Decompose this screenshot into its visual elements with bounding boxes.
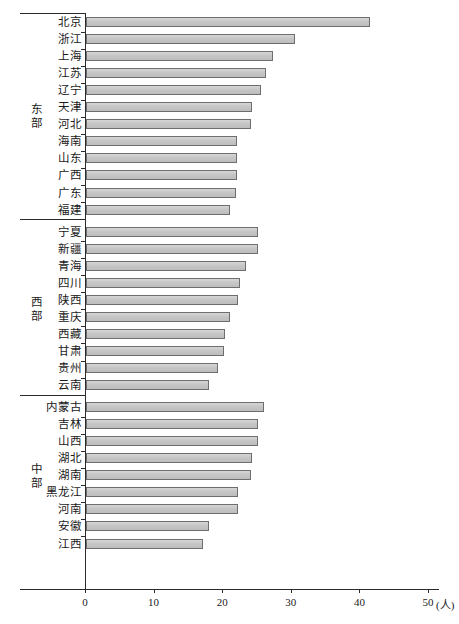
bar <box>86 188 236 198</box>
category-label: 云南 <box>58 377 82 394</box>
bar <box>86 380 209 390</box>
category-label: 海南 <box>58 133 82 150</box>
bar <box>86 521 209 531</box>
y-axis-tick <box>81 361 86 362</box>
bar-row: 北京 <box>0 14 459 31</box>
category-label: 山东 <box>58 150 82 167</box>
bar-row: 广西 <box>0 167 459 184</box>
bar <box>86 119 251 129</box>
y-axis-tick <box>81 32 86 33</box>
bar <box>86 363 218 373</box>
category-label: 上海 <box>58 48 82 65</box>
x-axis-tick <box>291 589 292 593</box>
bar <box>86 136 237 146</box>
bar-row: 江西 <box>0 536 459 553</box>
y-axis-tick <box>81 134 86 135</box>
category-label: 内蒙古 <box>46 399 82 416</box>
bar-row: 江苏 <box>0 65 459 82</box>
category-label: 青海 <box>58 258 82 275</box>
y-axis-tick <box>81 241 86 242</box>
category-label: 辽宁 <box>58 82 82 99</box>
category-label: 山西 <box>58 433 82 450</box>
bar <box>86 205 230 215</box>
x-axis-line <box>20 589 439 590</box>
bar <box>86 34 295 44</box>
category-label: 陕西 <box>58 292 82 309</box>
bar <box>86 261 246 271</box>
category-label: 江苏 <box>58 65 82 82</box>
category-label: 河南 <box>58 501 82 518</box>
bar-row: 河南 <box>0 501 459 518</box>
x-axis-label: 20 <box>217 596 228 608</box>
y-axis-tick <box>81 468 86 469</box>
y-axis-tick <box>81 292 86 293</box>
bar <box>86 453 252 463</box>
bar <box>86 227 258 237</box>
bar <box>86 346 224 356</box>
category-label: 浙江 <box>58 31 82 48</box>
bar <box>86 68 266 78</box>
bar-row: 吉林 <box>0 416 459 433</box>
bar <box>86 244 258 254</box>
y-axis-tick <box>81 151 86 152</box>
bar <box>86 329 225 339</box>
x-axis-tick <box>154 589 155 593</box>
x-axis-label: 50 <box>423 596 434 608</box>
x-axis-tick <box>222 589 223 593</box>
category-label: 新疆 <box>58 241 82 258</box>
y-axis-tick <box>81 66 86 67</box>
category-label: 重庆 <box>58 309 82 326</box>
group-label-2: 中部 <box>20 463 42 491</box>
category-label: 湖南 <box>58 467 82 484</box>
x-axis-tick <box>428 589 429 593</box>
category-label: 甘肃 <box>58 343 82 360</box>
bar-row: 海南 <box>0 133 459 150</box>
y-axis-tick <box>81 485 86 486</box>
bar <box>86 295 238 305</box>
bar-row: 辽宁 <box>0 82 459 99</box>
category-label: 广西 <box>58 167 82 184</box>
y-axis-tick <box>81 49 86 50</box>
y-axis-tick <box>81 451 86 452</box>
y-axis-tick <box>81 117 86 118</box>
bar <box>86 539 203 549</box>
category-label: 河北 <box>58 116 82 133</box>
y-axis-tick <box>81 202 86 203</box>
category-label: 西藏 <box>58 326 82 343</box>
bar-row: 内蒙古 <box>0 399 459 416</box>
bar-row: 甘肃 <box>0 343 459 360</box>
bar <box>86 51 273 61</box>
group-label-0: 东部 <box>20 103 42 131</box>
x-axis-label: 0 <box>82 596 88 608</box>
bar-chart: 北京浙江上海江苏辽宁天津河北海南山东广西广东福建宁夏新疆青海四川陕西重庆西藏甘肃… <box>0 0 459 624</box>
x-axis-tick <box>85 589 86 593</box>
bar-row: 新疆 <box>0 241 459 258</box>
x-axis-label: 40 <box>354 596 365 608</box>
x-axis-tick <box>359 589 360 593</box>
category-label: 湖北 <box>58 450 82 467</box>
group-separator <box>20 219 86 220</box>
y-axis-tick <box>81 275 86 276</box>
bar-row: 陕西 <box>0 292 459 309</box>
bar-row: 云南 <box>0 377 459 394</box>
y-axis-tick <box>81 168 86 169</box>
bar <box>86 436 258 446</box>
category-label: 江西 <box>58 536 82 553</box>
y-axis-tick <box>81 417 86 418</box>
bar <box>86 312 230 322</box>
category-label: 北京 <box>58 14 82 31</box>
bar <box>86 402 264 412</box>
bar-row: 四川 <box>0 275 459 292</box>
group-separator <box>20 395 86 396</box>
bar-row: 天津 <box>0 99 459 116</box>
bar-row: 湖北 <box>0 450 459 467</box>
category-label: 吉林 <box>58 416 82 433</box>
bar-row: 山东 <box>0 150 459 167</box>
category-label: 广东 <box>58 185 82 202</box>
bar <box>86 17 370 27</box>
bar-row: 贵州 <box>0 360 459 377</box>
bar <box>86 153 237 163</box>
category-label: 福建 <box>58 202 82 219</box>
category-label: 四川 <box>58 275 82 292</box>
bar-row: 湖南 <box>0 467 459 484</box>
